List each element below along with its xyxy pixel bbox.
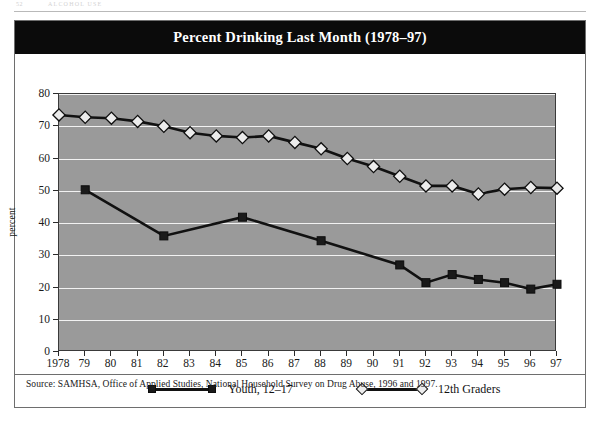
x-tick-mark — [320, 351, 321, 356]
x-tick-label: 82 — [157, 357, 169, 369]
x-tick-mark — [215, 351, 216, 356]
x-tick-label: 89 — [341, 357, 353, 369]
x-tick-label: 86 — [262, 357, 274, 369]
gridline — [59, 126, 555, 127]
gridline — [59, 288, 555, 289]
figure-container: Percent Drinking Last Month (1978–97) pe… — [14, 20, 586, 408]
y-tick-label: 80 — [39, 87, 51, 99]
x-tick-label: 93 — [445, 357, 457, 369]
y-tick-label: 30 — [39, 248, 51, 260]
x-tick-label: 92 — [419, 357, 431, 369]
x-tick-label: 91 — [393, 357, 405, 369]
chart-title-banner: Percent Drinking Last Month (1978–97) — [15, 21, 585, 54]
x-tick-mark — [294, 351, 295, 356]
source-note: Source: SAMHSA, Office of Applied Studie… — [26, 379, 574, 389]
gridline — [59, 320, 555, 321]
y-tick-label: 0 — [44, 345, 50, 357]
x-tick-mark — [163, 351, 164, 356]
x-tick-label: 80 — [105, 357, 117, 369]
x-tick-label: 81 — [131, 357, 143, 369]
x-tick-label: 83 — [183, 357, 195, 369]
y-tick-label: 20 — [39, 281, 51, 293]
x-tick-mark — [346, 351, 347, 356]
x-tick-mark — [451, 351, 452, 356]
x-tick-mark — [84, 351, 85, 356]
y-tick-label: 40 — [39, 216, 51, 228]
x-tick-label: 79 — [78, 357, 90, 369]
x-tick-label: 97 — [550, 357, 562, 369]
x-tick-mark — [268, 351, 269, 356]
x-tick-mark — [58, 351, 59, 356]
header-rule — [14, 11, 586, 12]
gridline — [59, 159, 555, 160]
x-tick-mark — [399, 351, 400, 356]
x-tick-mark — [477, 351, 478, 356]
x-tick-mark — [425, 351, 426, 356]
chart-title: Percent Drinking Last Month (1978–97) — [173, 29, 426, 46]
y-tick-label: 60 — [39, 152, 51, 164]
x-tick-mark — [504, 351, 505, 356]
x-tick-mark — [373, 351, 374, 356]
gridlines — [59, 94, 555, 350]
gridline — [59, 223, 555, 224]
x-tick-label: 85 — [236, 357, 248, 369]
chart-region: percent 01020304050607080 19787980818283… — [15, 54, 585, 374]
x-tick-label: 1978 — [47, 357, 70, 369]
gridline — [59, 255, 555, 256]
x-tick-label: 88 — [314, 357, 326, 369]
page-folio: 52 — [16, 1, 23, 7]
x-tick-label: 84 — [210, 357, 222, 369]
running-head: ALCOHOL USE — [48, 1, 102, 7]
y-tick-label: 50 — [39, 184, 51, 196]
x-tick-label: 95 — [498, 357, 510, 369]
y-tick-label: 70 — [39, 119, 51, 131]
x-tick-mark — [530, 351, 531, 356]
plot-area — [58, 93, 556, 351]
x-tick-label: 94 — [472, 357, 484, 369]
x-tick-label: 96 — [524, 357, 536, 369]
y-tick-label: 10 — [39, 313, 51, 325]
x-tick-mark — [241, 351, 242, 356]
x-tick-mark — [189, 351, 190, 356]
gridline — [59, 94, 555, 95]
x-tick-mark — [110, 351, 111, 356]
gridline — [59, 191, 555, 192]
y-axis: 01020304050607080 — [15, 93, 58, 351]
x-tick-label: 90 — [367, 357, 379, 369]
source-divider — [15, 374, 585, 375]
page-header: 52 ALCOHOL USE — [0, 0, 600, 14]
x-tick-mark — [556, 351, 557, 356]
x-tick-mark — [137, 351, 138, 356]
x-tick-label: 87 — [288, 357, 300, 369]
